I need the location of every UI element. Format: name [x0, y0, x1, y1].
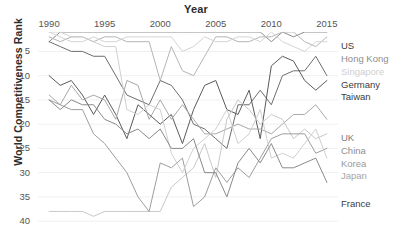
series-label-france: France [341, 199, 371, 209]
series-label-singapore: Singapore [341, 67, 384, 77]
line-korea [49, 100, 327, 212]
series-label-china: China [341, 146, 366, 156]
y-tick-25: 25 [8, 142, 30, 153]
y-tick-40: 40 [8, 215, 30, 226]
x-tick-1990: 1990 [29, 18, 69, 29]
y-tick-20: 20 [8, 118, 30, 129]
y-tick-5: 5 [8, 45, 30, 56]
series-lines [38, 32, 338, 226]
series-label-japan: Japan [341, 171, 367, 181]
plot-area [38, 32, 338, 226]
y-tick-15: 15 [8, 94, 30, 105]
series-label-us: US [341, 41, 354, 51]
chart-container: Year World Competitiveness Rank 19901995… [0, 0, 398, 246]
y-tick-35: 35 [8, 191, 30, 202]
x-tick-1995: 1995 [85, 18, 125, 29]
line-japan [49, 32, 327, 173]
x-tick-2000: 2000 [140, 18, 180, 29]
y-tick-10: 10 [8, 70, 30, 81]
line-hong-kong [49, 32, 327, 81]
series-label-uk: UK [341, 133, 354, 143]
line-china [49, 100, 327, 216]
x-tick-2015: 2015 [307, 18, 347, 29]
series-label-hong-kong: Hong Kong [341, 54, 389, 64]
series-label-taiwan: Taiwan [341, 92, 371, 102]
line-singapore [49, 32, 327, 51]
x-tick-2005: 2005 [196, 18, 236, 29]
x-tick-2010: 2010 [251, 18, 291, 29]
y-tick-30: 30 [8, 167, 30, 178]
x-axis-title: Year [0, 3, 392, 15]
series-label-korea: Korea [341, 159, 366, 169]
series-label-germany: Germany [341, 80, 380, 90]
